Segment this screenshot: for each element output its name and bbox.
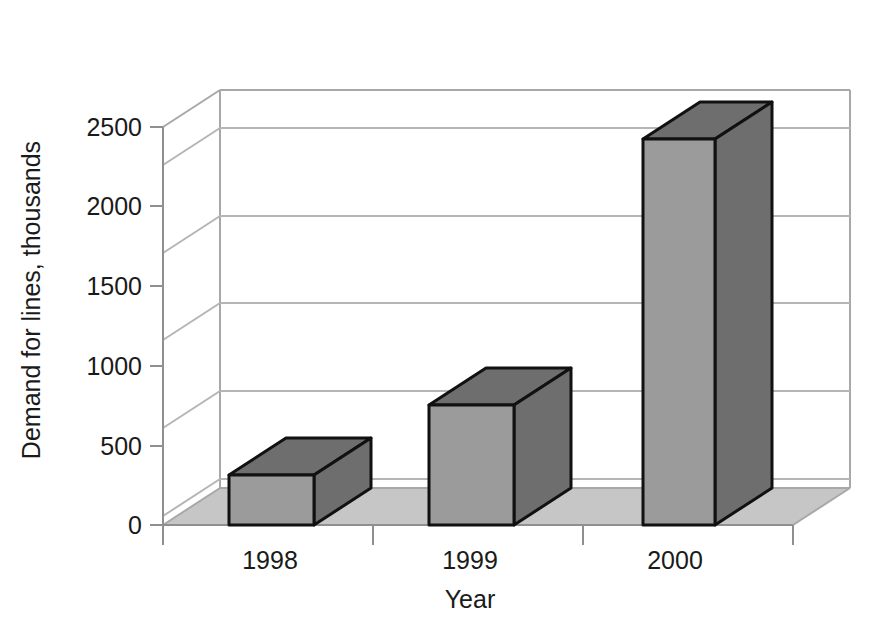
perspective-edge-top [163,90,220,127]
y-axis-title: Demand for lines, thousands [17,141,45,459]
gridline-2500-riser [163,128,220,165]
y-axis [150,127,163,525]
x-tick-label-2000: 2000 [647,546,703,574]
x-tick-labels: 1998 1999 2000 [242,546,703,574]
bar-1999[interactable] [429,368,571,525]
x-tick-label-1998: 1998 [242,546,298,574]
y-tick-label-0: 0 [128,511,142,539]
chart-container: 2500 2000 1500 1000 500 0 1998 1999 2000… [0,0,885,631]
y-tick-label-2500: 2500 [86,113,142,141]
y-tick-label-1000: 1000 [86,352,142,380]
bar-2000-front-face [643,139,715,525]
gridline-1000-riser [163,391,220,428]
bar-2000[interactable] [643,102,772,525]
bar-1999-front-face [429,405,514,525]
y-tick-label-2000: 2000 [86,192,142,220]
y-tick-label-1500: 1500 [86,272,142,300]
gridline-1500-riser [163,303,220,340]
x-tick-label-1999: 1999 [442,546,498,574]
x-axis [163,525,793,545]
bar-1998-front-face [229,475,314,525]
bar-chart-3d: 2500 2000 1500 1000 500 0 1998 1999 2000… [0,0,885,631]
x-axis-title: Year [445,585,496,613]
y-tick-label-500: 500 [100,432,142,460]
gridline-2000-riser [163,216,220,253]
bar-2000-side-face [715,102,772,525]
y-tick-labels: 2500 2000 1500 1000 500 0 [86,113,142,539]
